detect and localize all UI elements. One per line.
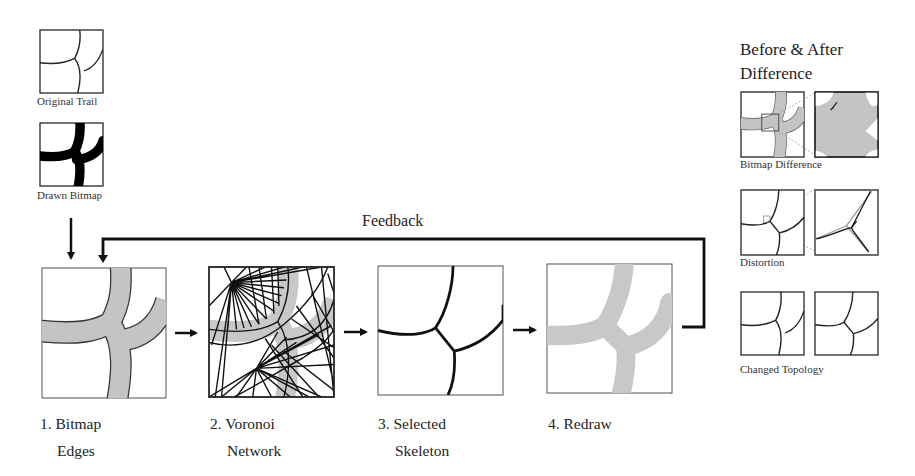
original-trail-thumbnail (40, 30, 103, 93)
distortion-zoom (815, 190, 878, 255)
topology-before (741, 292, 804, 355)
step1-bitmap-edges-panel (36, 262, 166, 405)
step2-voronoi-network-panel (203, 261, 334, 404)
changed-topology-label: Changed Topology (740, 363, 824, 375)
step-label-4: 4. Redraw (548, 410, 612, 437)
drawn-bitmap-thumbnail (37, 120, 103, 189)
feedback-label: Feedback (362, 212, 423, 230)
bitmap-difference-label: Bitmap Difference (740, 158, 822, 170)
step4-redraw-panel (541, 258, 672, 400)
drawn-bitmap-label: Drawn Bitmap (37, 189, 102, 201)
topology-after (815, 292, 878, 355)
comparison-title-line2: Difference (740, 62, 843, 86)
step-label-2-line2: Network (210, 437, 281, 464)
step-label-3-line1: 3. Selected (378, 415, 446, 432)
step-label-1-line1: 1. Bitmap (40, 415, 101, 432)
step-label-2: 2. Voronoi Network (210, 410, 281, 464)
step-label-3: 3. Selected Skeleton (378, 410, 449, 464)
distortion-label: Distortion (740, 256, 785, 268)
step-label-1: 1. Bitmap Edges (40, 410, 101, 464)
step-label-3-line2: Skeleton (378, 437, 449, 464)
step-label-2-line1: 2. Voronoi (210, 415, 275, 432)
comparison-title-line1: Before & After (740, 38, 843, 62)
bitmap-difference-before (738, 89, 804, 161)
original-trail-label: Original Trail (37, 95, 97, 107)
comparison-title: Before & After Difference (740, 38, 843, 86)
bitmap-difference-zoom (815, 92, 878, 157)
step-label-4-line1: 4. Redraw (548, 415, 612, 432)
step-label-1-line2: Edges (40, 437, 101, 464)
distortion-before (741, 190, 804, 255)
step3-selected-skeleton-panel (378, 266, 503, 395)
